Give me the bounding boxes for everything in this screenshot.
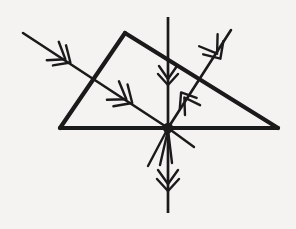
incidence-point-dot: [163, 123, 173, 133]
optics-ray-diagram-canvas: [0, 0, 296, 229]
ray-diagram-figure: [0, 0, 296, 229]
